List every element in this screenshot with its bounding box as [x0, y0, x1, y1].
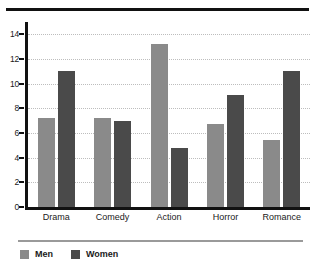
bar-horror-women: [227, 95, 244, 207]
y-axis-tick-mark: [19, 181, 24, 183]
y-axis-tick-mark: [19, 33, 24, 35]
chart-figure: 02468101214 DramaComedyActionHorrorRoman…: [0, 0, 315, 269]
x-axis-label-drama: Drama: [28, 212, 84, 222]
top-divider-rule: [6, 8, 309, 11]
y-axis-tick-mark: [19, 58, 24, 60]
x-axis-category-labels: DramaComedyActionHorrorRomance: [28, 212, 310, 222]
bar-action-women: [171, 148, 188, 207]
bar-drama-men: [38, 118, 55, 207]
y-axis-tick-mark: [19, 206, 24, 208]
x-axis-label-horror: Horror: [197, 212, 253, 222]
bar-group: [197, 18, 253, 207]
y-axis-tick-mark: [19, 83, 24, 85]
x-axis-label-romance: Romance: [254, 212, 310, 222]
legend-swatch-women-icon: [71, 250, 80, 259]
x-axis-label-comedy: Comedy: [84, 212, 140, 222]
bar-romance-men: [263, 140, 280, 207]
y-axis-tick-mark: [19, 157, 24, 159]
bar-comedy-women: [114, 121, 131, 207]
bar-group: [84, 18, 140, 207]
x-axis-label-action: Action: [141, 212, 197, 222]
bar-group: [28, 18, 84, 207]
bar-comedy-men: [94, 118, 111, 207]
chart-legend: MenWomen: [20, 249, 118, 259]
bar-romance-women: [283, 71, 300, 207]
y-axis-tick-label: 10: [10, 79, 19, 88]
bar-horror-men: [207, 124, 224, 207]
y-axis-tick-label: 12: [10, 55, 19, 64]
bar-action-men: [151, 44, 168, 207]
plot-area: 02468101214: [0, 18, 315, 210]
bar-drama-women: [58, 71, 75, 207]
legend-item-men[interactable]: Men: [20, 249, 53, 259]
legend-label: Women: [86, 249, 118, 259]
legend-swatch-men-icon: [20, 250, 29, 259]
bar-group: [141, 18, 197, 207]
legend-divider-rule: [18, 240, 303, 242]
x-axis-line: [25, 207, 310, 210]
y-axis-tick-mark: [19, 132, 24, 134]
y-axis-tick-mark: [19, 107, 24, 109]
legend-label: Men: [35, 249, 53, 259]
bar-groups: [28, 18, 310, 207]
legend-item-women[interactable]: Women: [71, 249, 118, 259]
y-axis-labels: 02468101214: [0, 18, 25, 210]
bar-group: [254, 18, 310, 207]
y-axis-tick-label: 14: [10, 30, 19, 39]
